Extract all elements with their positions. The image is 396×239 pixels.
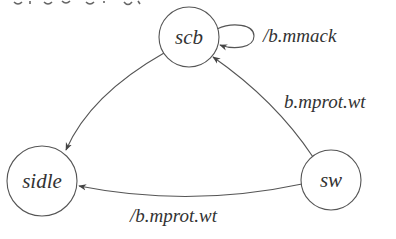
edge-label-scb-self-loop: /b.mmack [262, 25, 337, 46]
edge-label-sw-to-sidle: /b.mprot.wt [129, 205, 218, 226]
state-label-scb: scb [175, 25, 203, 49]
state-sidle: sidle [7, 146, 77, 216]
state-scb: scb [159, 7, 219, 67]
edge-sw-to-sidle [79, 184, 302, 197]
cropped-caption-fragment [14, 1, 140, 5]
edge-scb-to-sidle [66, 53, 164, 150]
edge-label-sw-to-scb: b.mprot.wt [284, 91, 366, 112]
state-sw: sw [301, 150, 361, 210]
edge-scb-self-loop [217, 25, 254, 48]
state-label-sw: sw [320, 168, 342, 192]
state-label-sidle: sidle [22, 169, 62, 193]
state-diagram: scb sidle sw /b.mmack b.mprot.wt /b.mpro… [0, 0, 396, 239]
